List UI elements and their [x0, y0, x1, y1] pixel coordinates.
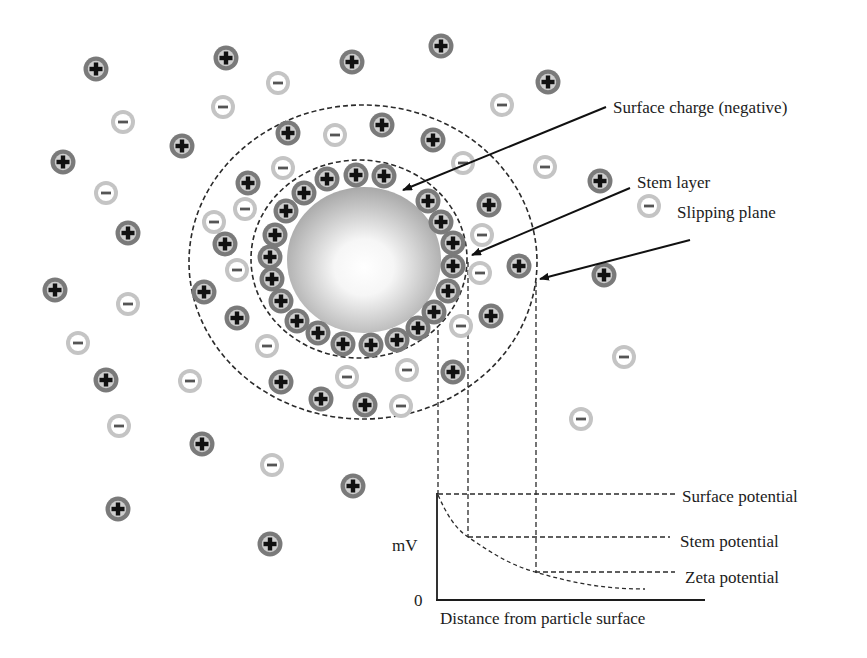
cation-icon: [344, 163, 369, 188]
anion-icon: [470, 223, 494, 247]
anion-icon: [116, 292, 140, 316]
anion-icon: [335, 365, 359, 389]
anion-icon: [569, 407, 593, 431]
cation-icon: [421, 128, 446, 153]
cation-icon: [94, 368, 119, 393]
cation-icon: [51, 150, 76, 175]
cation-icon: [43, 278, 68, 303]
anion-icon: [107, 414, 131, 438]
annotation-label: Slipping plane: [677, 203, 776, 222]
cation-icon: [441, 254, 466, 279]
anion-icon: [323, 123, 347, 147]
anion-icon: [395, 358, 419, 382]
cation-icon: [285, 309, 310, 334]
cation-icon: [588, 169, 613, 194]
cation-icon: [479, 304, 504, 329]
cation-icon: [372, 164, 397, 189]
cation-icon: [353, 393, 378, 418]
anion-icon: [66, 331, 90, 355]
cation-icon: [331, 332, 356, 357]
anion-icon: [266, 71, 290, 95]
cation-icon: [274, 199, 299, 224]
anion-icon: [202, 210, 226, 234]
cation-icon: [214, 46, 239, 71]
cation-icon: [429, 210, 454, 235]
annotation-label: Surface charge (negative): [613, 98, 787, 117]
anion-icon: [233, 197, 257, 221]
anion-icon: [612, 345, 636, 369]
cation-icon: [260, 267, 285, 292]
cation-icon: [190, 432, 215, 457]
level-label: Zeta potential: [685, 568, 779, 587]
cation-icon: [269, 289, 294, 314]
anion-icon: [260, 453, 284, 477]
cation-icon: [507, 254, 532, 279]
cation-icon: [477, 193, 502, 218]
potential-decay-curve: [438, 495, 645, 589]
cation-icon: [306, 321, 331, 346]
cation-icon: [225, 306, 250, 331]
cation-icon: [116, 221, 141, 246]
cation-icon: [213, 232, 238, 257]
cation-icon: [441, 360, 466, 385]
cation-icon: [385, 328, 410, 353]
level-label: Surface potential: [682, 487, 798, 506]
anion-icon: [389, 394, 413, 418]
cation-icon: [192, 280, 217, 305]
cation-icon: [258, 532, 283, 557]
cation-icon: [309, 387, 334, 412]
potential-graph: Surface potentialStem potentialZeta pote…: [392, 487, 798, 628]
y-axis-label: mV: [392, 536, 418, 555]
anion-icon: [255, 334, 279, 358]
cation-icon: [292, 181, 317, 206]
cation-icon: [416, 189, 441, 214]
annotation-label: Stem layer: [637, 173, 711, 192]
cation-icon: [592, 263, 617, 288]
cation-icon: [269, 370, 294, 395]
anion-icon: [468, 261, 492, 285]
cation-icon: [340, 50, 365, 75]
cation-icon: [236, 171, 261, 196]
cation-icon: [359, 333, 384, 358]
origin-label: 0: [414, 591, 423, 610]
anion-icon: [637, 194, 661, 218]
potential-level-lines: Surface potentialStem potentialZeta pote…: [438, 487, 798, 587]
electric-double-layer-diagram: Surface charge (negative)Stem layerSlipp…: [0, 0, 867, 658]
cation-icon: [84, 57, 109, 82]
cation-icon: [276, 121, 301, 146]
cation-icon: [315, 167, 340, 192]
cation-icon: [436, 279, 461, 304]
anion-icon: [225, 258, 249, 282]
level-label: Stem potential: [680, 532, 779, 551]
anion-icon: [211, 95, 235, 119]
cation-icon: [536, 70, 561, 95]
cation-icon: [341, 474, 366, 499]
cation-icon: [429, 34, 454, 59]
anion-icon: [449, 314, 473, 338]
anion-icon: [178, 369, 202, 393]
anion-icon: [533, 155, 557, 179]
charged-particle: [287, 187, 441, 333]
cation-icon: [106, 497, 131, 522]
cation-icon: [170, 134, 195, 159]
cation-icon: [441, 231, 466, 256]
cation-icon: [258, 245, 283, 270]
anion-icon: [111, 110, 135, 134]
cation-icon: [422, 300, 447, 325]
cation-icon: [263, 223, 288, 248]
x-axis-label: Distance from particle surface: [440, 609, 645, 628]
anion-icon: [94, 181, 118, 205]
anion-icon: [271, 156, 295, 180]
cation-icon: [370, 113, 395, 138]
anion-icon: [490, 93, 514, 117]
